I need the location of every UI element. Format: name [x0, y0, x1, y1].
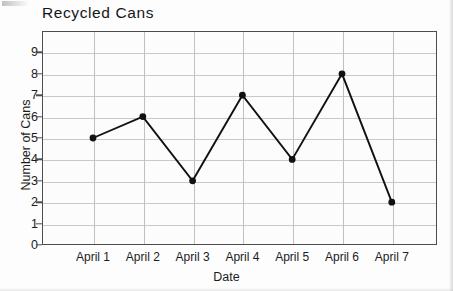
x-axis-tick-label: April 4: [225, 250, 259, 264]
x-axis-tick-label: April 3: [176, 250, 210, 264]
data-point-marker: [388, 199, 395, 206]
x-axis-tick-label: April 6: [325, 250, 359, 264]
data-point-marker: [239, 92, 246, 99]
x-axis-tick-label: April 5: [275, 250, 309, 264]
x-axis-tick-label: April 1: [76, 250, 110, 264]
data-series-layer: [0, 0, 453, 291]
data-point-marker: [289, 156, 296, 163]
x-axis-tick-label: April 7: [375, 250, 409, 264]
x-axis-label: Date: [0, 270, 453, 284]
x-axis-tick-label: April 2: [126, 250, 160, 264]
data-point-marker: [90, 135, 97, 142]
data-point-marker: [139, 113, 146, 120]
chart-page: Recycled Cans Number of Cans 0123456789 …: [0, 0, 453, 291]
data-point-marker: [339, 70, 346, 77]
data-point-marker: [189, 177, 196, 184]
x-axis-tick-labels: April 1April 2April 3April 4April 5April…: [0, 250, 453, 266]
